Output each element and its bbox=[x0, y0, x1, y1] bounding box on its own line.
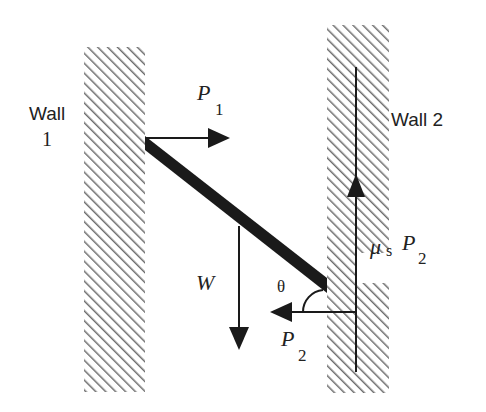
friction-p-label: P bbox=[401, 230, 415, 255]
diagram-canvas: Wall 1 Wall 2 P 1 W θ P 2 μ s P 2 bbox=[0, 0, 486, 412]
p2-subscript: 2 bbox=[298, 346, 307, 365]
wall-2-label: Wall 2 bbox=[391, 109, 443, 130]
theta-label: θ bbox=[277, 277, 285, 296]
p1-subscript: 1 bbox=[215, 100, 224, 119]
angle-theta-arc bbox=[303, 290, 323, 312]
rod bbox=[145, 136, 327, 293]
friction-2-subscript: 2 bbox=[418, 249, 427, 268]
weight-label: W bbox=[196, 270, 216, 295]
force-weight-arrow bbox=[229, 226, 249, 350]
friction-mu-label: μ bbox=[369, 234, 381, 259]
force-p1-arrow bbox=[145, 128, 230, 148]
p2-label: P bbox=[280, 326, 294, 351]
wall-1-label-line1: Wall bbox=[29, 103, 65, 124]
wall-1 bbox=[84, 47, 145, 392]
p1-label: P bbox=[196, 80, 210, 105]
friction-s-subscript: s bbox=[386, 242, 392, 259]
wall-2 bbox=[327, 25, 389, 393]
wall-1-label-line2: 1 bbox=[42, 128, 52, 150]
